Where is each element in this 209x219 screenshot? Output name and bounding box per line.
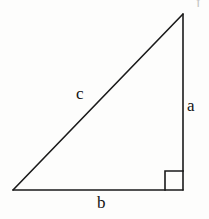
right-angle-marker-icon — [165, 171, 183, 190]
right-triangle-figure: c a b I — [0, 0, 209, 219]
side-label-a: a — [187, 97, 195, 114]
cropped-edge-artifact: I — [196, 0, 205, 7]
hypotenuse-line-c — [13, 14, 183, 190]
triangle-drawing — [0, 0, 209, 219]
side-label-c: c — [76, 85, 84, 102]
side-label-b: b — [97, 194, 106, 211]
